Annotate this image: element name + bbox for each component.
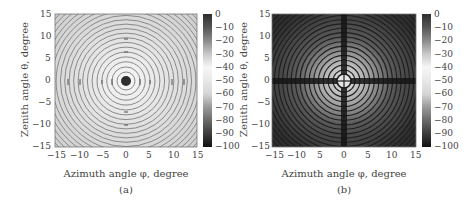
- colorbar-b: [422, 14, 431, 147]
- central-spot: [121, 76, 131, 86]
- ytick: −10: [32, 120, 51, 129]
- colorbar-tick: −90: [215, 129, 234, 138]
- xtick: −10: [287, 151, 306, 160]
- colorbar-tick: −70: [434, 103, 453, 112]
- ytick: −10: [251, 120, 270, 129]
- xtick: −10: [70, 151, 89, 160]
- colorbar-tick: −50: [215, 76, 234, 85]
- xtick: 15: [192, 151, 203, 160]
- colorbar-tick: −60: [434, 89, 453, 98]
- colorbar-tick: −30: [215, 50, 234, 59]
- xtick: 10: [386, 151, 397, 160]
- ytick: 15: [259, 10, 270, 19]
- colorbar-tick: −60: [215, 89, 234, 98]
- colorbar-tick: −40: [434, 63, 453, 72]
- colorbar-tick: −50: [434, 76, 453, 85]
- xtick: −15: [47, 151, 66, 160]
- panel-label: (b): [334, 184, 354, 195]
- x-axis-label: Azimuth angle φ, degree: [56, 168, 196, 179]
- xtick: 10: [168, 151, 179, 160]
- xtick: 5: [365, 151, 371, 160]
- ytick: −5: [257, 98, 270, 107]
- panel-a: 15 10 5 0 −5 −10 −15 −15 −10 −5 0 5 10 1…: [0, 0, 237, 207]
- xtick: −5: [96, 151, 109, 160]
- ytick: −5: [38, 98, 51, 107]
- colorbar-tick: −20: [434, 36, 453, 45]
- ytick: 5: [45, 54, 51, 63]
- xtick: −15: [265, 151, 284, 160]
- colorbar-tick: −70: [215, 103, 234, 112]
- colorbar-tick: −10: [215, 23, 234, 32]
- xtick: 15: [410, 151, 421, 160]
- y-axis-label: Zenith angle θ, degree: [19, 20, 30, 140]
- colorbar-tick: −10: [434, 23, 453, 32]
- xtick: 5: [146, 151, 152, 160]
- xtick: 0: [341, 151, 347, 160]
- ytick: 5: [264, 54, 270, 63]
- xtick: 5: [317, 151, 323, 160]
- colorbar-tick: −100: [434, 142, 459, 151]
- xtick: 0: [123, 151, 129, 160]
- ytick: 10: [40, 32, 51, 41]
- y-axis-label: Zenith angle θ, degree: [238, 20, 249, 140]
- colorbar-tick: 0: [434, 10, 440, 19]
- colorbar-tick: −20: [215, 36, 234, 45]
- colorbar-tick: −40: [215, 63, 234, 72]
- ytick: 0: [45, 76, 51, 85]
- x-axis-label: Azimuth angle φ, degree: [274, 168, 414, 179]
- ytick: 15: [40, 10, 51, 19]
- ytick: 0: [264, 76, 270, 85]
- panel-b: 15 10 5 0 −5 −10 −15 −15 −10 5 0 5 10 15…: [237, 0, 474, 207]
- colorbar-tick: −30: [434, 50, 453, 59]
- colorbar-tick: 0: [215, 10, 221, 19]
- ytick: 10: [259, 32, 270, 41]
- colorbar-tick: −80: [215, 116, 234, 125]
- colorbar-a: [203, 14, 212, 147]
- colorbar-tick: −80: [434, 116, 453, 125]
- colorbar-tick: −90: [434, 129, 453, 138]
- panel-label: (a): [116, 184, 136, 195]
